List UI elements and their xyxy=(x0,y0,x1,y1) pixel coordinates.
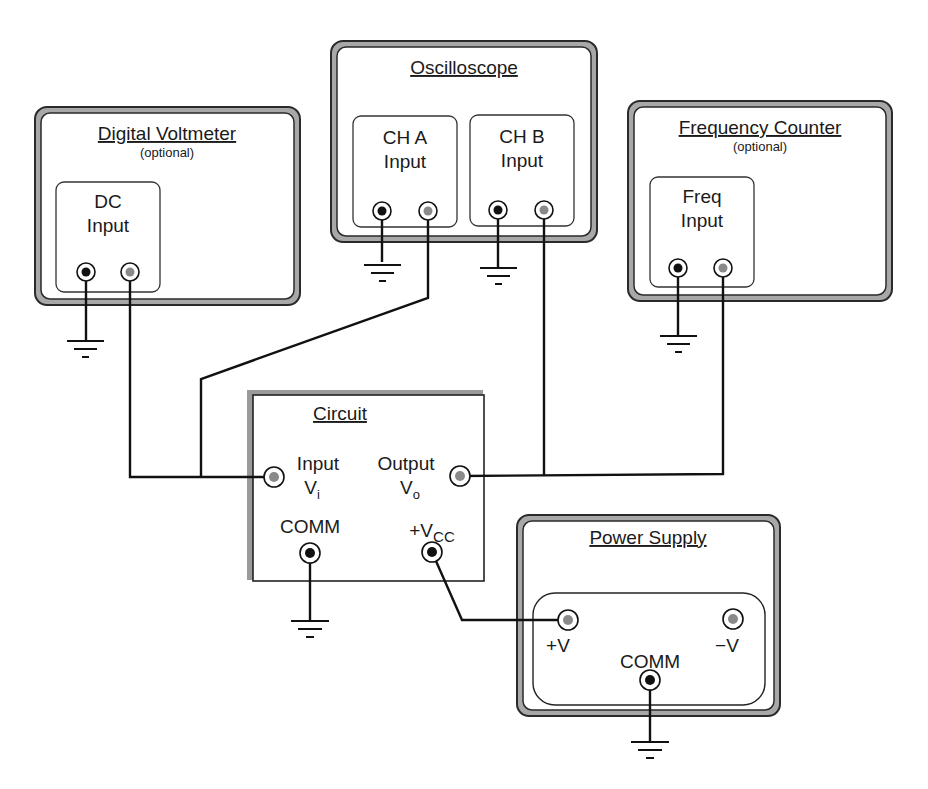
circuit-output-jack-icon[interactable] xyxy=(450,466,470,486)
ch-a-line1: CH A xyxy=(383,127,428,148)
jack-signal-icon[interactable] xyxy=(419,202,437,220)
ground-icon-ps xyxy=(631,742,669,758)
voltmeter-panel-line1: DC xyxy=(94,191,121,212)
ground-icon-ch-b xyxy=(480,268,517,284)
freq-panel-line1: Freq xyxy=(682,186,721,207)
circuit-input-jack-icon[interactable] xyxy=(264,467,284,487)
voltmeter-title: Digital Voltmeter xyxy=(98,123,237,144)
circuit-comm-label: COMM xyxy=(280,516,340,537)
ground-icon-ch-a xyxy=(364,265,401,281)
ps-comm-label: COMM xyxy=(620,651,680,672)
power-supply-title: Power Supply xyxy=(589,527,707,548)
ch-b-line2: Input xyxy=(501,150,544,171)
voltmeter-panel-line2: Input xyxy=(87,215,130,236)
oscilloscope-title: Oscilloscope xyxy=(410,57,518,78)
circuit-vcc-prefix: +V xyxy=(409,520,433,541)
digital-voltmeter: Digital Voltmeter (optional) DC Input xyxy=(35,107,300,305)
voltmeter-subtitle: (optional) xyxy=(140,145,194,160)
freq-panel-line2: Input xyxy=(681,210,724,231)
circuit-input-label: Input xyxy=(297,453,340,474)
ch-b-line1: CH B xyxy=(499,126,544,147)
oscilloscope: Oscilloscope CH A Input CH B Input xyxy=(331,41,597,242)
circuit-vi-sub: i xyxy=(317,487,320,502)
frequency-counter: Frequency Counter (optional) Freq Input xyxy=(628,101,892,301)
circuit-vo-sub: o xyxy=(413,487,420,502)
frequency-counter-title: Frequency Counter xyxy=(679,117,842,138)
jack-ground-icon[interactable] xyxy=(77,263,95,281)
circuit-vcc-jack-icon[interactable] xyxy=(422,542,442,562)
ps-plus-v-jack-icon[interactable] xyxy=(558,610,578,630)
jack-ground-icon[interactable] xyxy=(373,202,391,220)
circuit-title: Circuit xyxy=(313,403,368,424)
frequency-counter-subtitle: (optional) xyxy=(733,139,787,154)
ps-minus-v-jack-icon[interactable] xyxy=(723,609,743,629)
jack-ground-icon[interactable] xyxy=(669,259,687,277)
ground-icon-circuit xyxy=(291,621,329,637)
circuit-vi-v: V xyxy=(304,477,317,498)
circuit-output-label: Output xyxy=(377,453,435,474)
circuit-board: Circuit Input Vi Output Vo COMM +VCC xyxy=(247,390,484,581)
ground-icon-dvm xyxy=(67,341,104,357)
ch-a-line2: Input xyxy=(384,151,427,172)
jack-signal-icon[interactable] xyxy=(714,259,732,277)
ps-plus-v-label: +V xyxy=(546,635,570,656)
ground-icon-freq xyxy=(660,336,697,352)
jack-signal-icon[interactable] xyxy=(121,263,139,281)
jack-ground-icon[interactable] xyxy=(489,201,507,219)
ps-minus-v-label: −V xyxy=(715,635,739,656)
jack-signal-icon[interactable] xyxy=(535,201,553,219)
circuit-comm-jack-icon[interactable] xyxy=(300,543,320,563)
circuit-vo-v: V xyxy=(400,477,413,498)
ps-comm-jack-icon[interactable] xyxy=(640,670,660,690)
wiring-diagram: Digital Voltmeter (optional) DC Input Os… xyxy=(0,0,928,789)
